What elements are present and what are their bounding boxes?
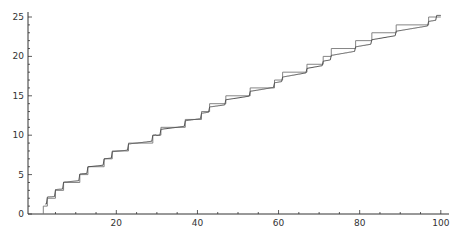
x-tick-label: 60 [273, 218, 285, 228]
x-tick-label: 100 [432, 218, 449, 228]
y-tick-label: 10 [13, 130, 25, 140]
x-tick-label: 80 [354, 218, 366, 228]
axes: 204060801000510152025 [13, 12, 450, 228]
y-tick-label: 20 [13, 51, 25, 61]
step-series [43, 17, 440, 214]
y-tick-label: 25 [13, 12, 24, 22]
prime-counting-chart: 204060801000510152025 [0, 0, 459, 237]
plot-series [43, 15, 440, 214]
x-tick-label: 20 [111, 218, 123, 228]
y-tick-label: 15 [13, 91, 24, 101]
y-tick-label: 0 [18, 209, 24, 219]
y-tick-label: 5 [18, 170, 24, 180]
x-tick-label: 40 [192, 218, 204, 228]
smooth-series [45, 15, 441, 204]
